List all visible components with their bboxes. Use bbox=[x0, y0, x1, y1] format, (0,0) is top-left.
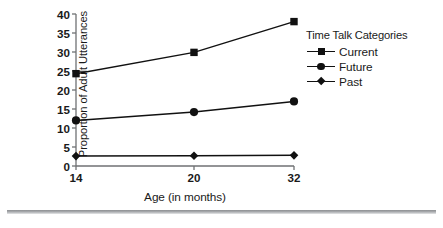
y-tick-label: 10 bbox=[57, 122, 70, 135]
legend-marker-diamond-icon bbox=[306, 74, 336, 89]
y-tick-label: 15 bbox=[57, 103, 70, 116]
data-point-circle bbox=[72, 116, 80, 124]
legend-item-future[interactable]: Future bbox=[306, 59, 440, 74]
legend-item-past[interactable]: Past bbox=[306, 74, 440, 89]
x-tick-label: 20 bbox=[188, 171, 201, 184]
series-past bbox=[72, 151, 299, 160]
legend-item-label: Past bbox=[339, 75, 362, 89]
series-current bbox=[72, 18, 297, 77]
y-tick-label: 35 bbox=[57, 27, 70, 40]
y-tick-label: 25 bbox=[57, 65, 70, 78]
figure-container: Proportion of Adult Utterances 051015202… bbox=[0, 0, 443, 228]
data-point-diamond bbox=[290, 151, 299, 160]
legend-title: Time Talk Categories bbox=[306, 29, 440, 41]
bottom-divider-rule bbox=[7, 210, 436, 214]
legend-marker-square-icon bbox=[306, 44, 336, 59]
series-line bbox=[76, 22, 294, 74]
series-line bbox=[76, 101, 294, 120]
data-point-circle bbox=[190, 108, 198, 116]
legend-item-current[interactable]: Current bbox=[306, 44, 440, 59]
plot-area: Proportion of Adult Utterances 051015202… bbox=[76, 14, 294, 166]
y-tick-label: 40 bbox=[57, 8, 70, 21]
x-tick-label: 32 bbox=[288, 171, 301, 184]
data-point-circle bbox=[290, 97, 298, 105]
series-line bbox=[76, 155, 294, 156]
legend-items: CurrentFuturePast bbox=[306, 44, 440, 89]
series-future bbox=[72, 97, 298, 124]
y-tick-label: 5 bbox=[64, 141, 70, 154]
x-axis-title: Age (in months) bbox=[30, 190, 340, 204]
data-point-square bbox=[190, 49, 197, 56]
data-point-diamond bbox=[190, 151, 199, 160]
x-tick-label: 14 bbox=[70, 171, 83, 184]
y-tick-label: 30 bbox=[57, 46, 70, 59]
legend-item-label: Future bbox=[339, 60, 373, 74]
chart-plot bbox=[76, 14, 294, 166]
data-point-diamond bbox=[72, 152, 81, 161]
data-point-square bbox=[290, 18, 297, 25]
legend-item-label: Current bbox=[339, 45, 378, 59]
legend-marker-circle-icon bbox=[306, 59, 336, 74]
chart-legend: Time Talk Categories CurrentFuturePast bbox=[306, 29, 440, 89]
data-point-square bbox=[72, 70, 79, 77]
y-tick-label: 20 bbox=[57, 84, 70, 97]
